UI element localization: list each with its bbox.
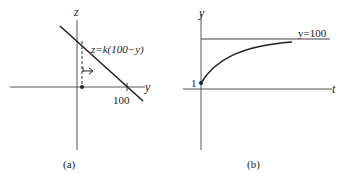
point-dot [80,85,84,89]
t-axis-label: t [332,82,336,96]
line-z-equals-k-100-minus-y [60,26,143,101]
logistic-curve [201,42,292,83]
panel-a: z y z=k(100−y) 100 (a) [10,5,151,171]
caption-b: (b) [247,158,260,171]
diagram: z y z=k(100−y) 100 (a) y t y=100 1 (b) [0,0,345,181]
caption-a: (a) [63,158,76,171]
line-equation-label: z=k(100−y) [90,43,144,56]
z-axis-label: z [73,5,79,19]
initial-value-label: 1 [191,77,197,89]
panel-b: y t y=100 1 (b) [183,6,336,171]
asymptote-label: y=100 [298,27,327,39]
y-axis-label: y [144,80,151,94]
tick-label-100: 100 [113,94,130,106]
initial-point [199,81,203,85]
arrow-right-icon [83,67,93,74]
y-axis-label-b: y [198,6,205,20]
